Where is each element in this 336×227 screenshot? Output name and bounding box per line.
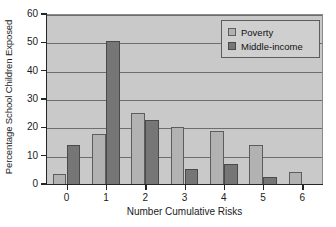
bar-middle-income [67, 145, 81, 185]
y-axis-tick [41, 13, 46, 14]
gridline [47, 128, 322, 129]
x-axis-title: Number Cumulative Risks [47, 206, 322, 218]
y-axis-tick [41, 42, 46, 43]
gridline [47, 72, 322, 73]
bar-poverty [131, 113, 145, 185]
legend-label-poverty: Poverty [241, 27, 273, 38]
chart-legend: Poverty Middle-income [221, 20, 320, 58]
x-axis-tick-label: 0 [52, 192, 82, 204]
y-axis-tick [41, 70, 46, 71]
x-axis-tick [106, 185, 107, 190]
y-axis-tick-label: 60 [0, 9, 38, 19]
x-axis-tick [263, 185, 264, 190]
x-axis-tick [185, 185, 186, 190]
bar-chart: Percentage School Children Exposed 01020… [0, 0, 336, 227]
gridline [47, 15, 322, 16]
legend-swatch-poverty [228, 28, 236, 36]
x-axis-tick-label: 4 [209, 192, 239, 204]
bar-poverty [92, 134, 106, 185]
x-axis-tick-label: 6 [287, 192, 317, 204]
x-axis-tick [224, 185, 225, 190]
x-axis-tick-label: 5 [248, 192, 278, 204]
y-axis-tick-label: 30 [0, 94, 38, 104]
y-axis-tick [41, 127, 46, 128]
x-axis-tick [67, 185, 68, 190]
y-axis-tick-label: 20 [0, 122, 38, 132]
y-axis-tick-label: 10 [0, 151, 38, 161]
legend-label-middle-income: Middle-income [241, 41, 303, 52]
gridline [47, 157, 322, 158]
y-axis-tick [41, 98, 46, 99]
y-axis-tick-label: 50 [0, 37, 38, 47]
bar-poverty [171, 127, 185, 185]
x-axis-tick-label: 3 [170, 192, 200, 204]
x-axis-tick [302, 185, 303, 190]
y-axis-line [46, 13, 47, 185]
y-axis-tick-label: 40 [0, 66, 38, 76]
x-axis-tick [145, 185, 146, 190]
gridline [47, 100, 322, 101]
x-axis-tick-label: 1 [91, 192, 121, 204]
y-axis-tick [41, 183, 46, 184]
legend-item-poverty: Poverty [228, 25, 314, 39]
bar-middle-income [145, 120, 159, 185]
x-axis-tick-label: 2 [130, 192, 160, 204]
bar-poverty [210, 131, 224, 185]
legend-item-middle-income: Middle-income [228, 39, 314, 53]
bar-middle-income [185, 169, 199, 185]
bar-middle-income [106, 41, 120, 186]
bar-middle-income [224, 164, 238, 185]
bar-poverty [249, 145, 263, 185]
y-axis-tick [41, 155, 46, 156]
y-axis-tick-label: 0 [0, 179, 38, 189]
legend-swatch-middle-income [228, 42, 236, 50]
